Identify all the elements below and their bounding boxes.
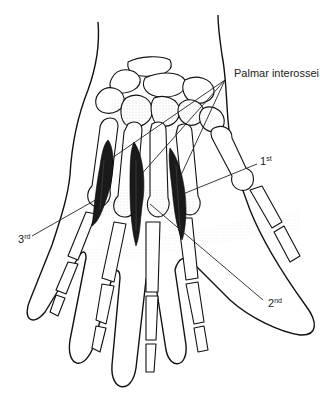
hand-anatomy-figure: Palmar interossei 1st 3rd 2nd xyxy=(0,0,330,407)
label-3rd-suffix: rd xyxy=(24,233,30,240)
label-palmar-interossei: Palmar interossei xyxy=(234,68,319,79)
label-2nd: 2nd xyxy=(268,297,282,309)
label-3rd: 3rd xyxy=(18,233,30,245)
label-1st: 1st xyxy=(260,155,272,167)
label-1st-suffix: st xyxy=(266,155,271,162)
label-2nd-suffix: nd xyxy=(274,297,282,304)
hand-skeleton-drawing xyxy=(0,0,330,407)
